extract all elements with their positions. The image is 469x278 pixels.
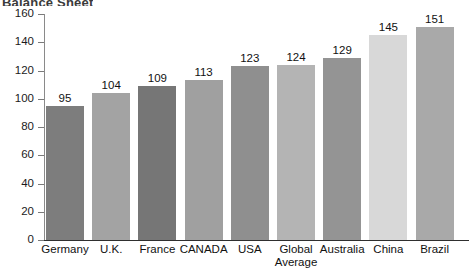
y-axis-tick-label: 40 xyxy=(0,177,34,189)
bar[interactable] xyxy=(277,65,315,240)
bar-column[interactable]: 113 xyxy=(185,80,223,240)
x-axis-category-label: Brazil xyxy=(410,243,460,256)
bar[interactable] xyxy=(92,93,130,240)
bar[interactable] xyxy=(138,86,176,240)
bar-value-label: 124 xyxy=(286,51,305,63)
bar-column[interactable]: 109 xyxy=(138,86,176,240)
bar[interactable] xyxy=(231,66,269,240)
bar-column[interactable]: 129 xyxy=(323,58,361,240)
bar-value-label: 95 xyxy=(59,92,72,104)
bar-chart-plot-area: 020406080100120140160 951041091131231241… xyxy=(0,0,469,278)
y-axis-tick xyxy=(38,155,44,156)
x-axis-line xyxy=(44,240,469,241)
y-axis-tick xyxy=(38,212,44,213)
y-axis-tick-label: 120 xyxy=(0,64,34,76)
y-axis-tick-label: 140 xyxy=(0,35,34,47)
bar-value-label: 129 xyxy=(333,44,352,56)
y-axis-tick-label: 100 xyxy=(0,92,34,104)
bar-value-label: 104 xyxy=(102,79,121,91)
y-axis-tick xyxy=(38,240,44,241)
bar-column[interactable]: 95 xyxy=(46,106,84,240)
bar-column[interactable]: 145 xyxy=(369,35,407,240)
bar[interactable] xyxy=(185,80,223,240)
y-axis-tick xyxy=(38,42,44,43)
y-axis-line xyxy=(44,14,45,240)
bar-value-label: 123 xyxy=(240,52,259,64)
y-axis-tick xyxy=(38,127,44,128)
bar[interactable] xyxy=(46,106,84,240)
x-axis-category-label: Australia xyxy=(317,243,367,256)
y-axis-tick-label: 60 xyxy=(0,148,34,160)
x-axis-category-label: Global Average xyxy=(271,243,321,268)
x-axis-category-label: U.K. xyxy=(86,243,136,256)
y-axis-tick xyxy=(38,184,44,185)
x-axis-category-label: China xyxy=(363,243,413,256)
x-axis-category-label: Germany xyxy=(40,243,90,256)
bar-column[interactable]: 123 xyxy=(231,66,269,240)
bar[interactable] xyxy=(369,35,407,240)
bar-value-label: 145 xyxy=(379,21,398,33)
bar-value-label: 151 xyxy=(425,13,444,25)
bar-value-label: 109 xyxy=(148,72,167,84)
x-axis-category-label: USA xyxy=(225,243,275,256)
y-axis-tick-label: 0 xyxy=(0,233,34,245)
bar[interactable] xyxy=(323,58,361,240)
bar-column[interactable]: 151 xyxy=(416,27,454,240)
y-axis-tick-label: 80 xyxy=(0,120,34,132)
bar-column[interactable]: 104 xyxy=(92,93,130,240)
y-axis-tick xyxy=(38,99,44,100)
x-axis-category-label: CANADA xyxy=(179,243,229,256)
bar[interactable] xyxy=(416,27,454,240)
y-axis-tick xyxy=(38,71,44,72)
x-axis-category-label: France xyxy=(132,243,182,256)
y-axis-tick-label: 20 xyxy=(0,205,34,217)
bar-value-label: 113 xyxy=(194,66,212,78)
y-axis-tick xyxy=(38,14,44,15)
y-axis-tick-label: 160 xyxy=(0,7,34,19)
bar-column[interactable]: 124 xyxy=(277,65,315,240)
